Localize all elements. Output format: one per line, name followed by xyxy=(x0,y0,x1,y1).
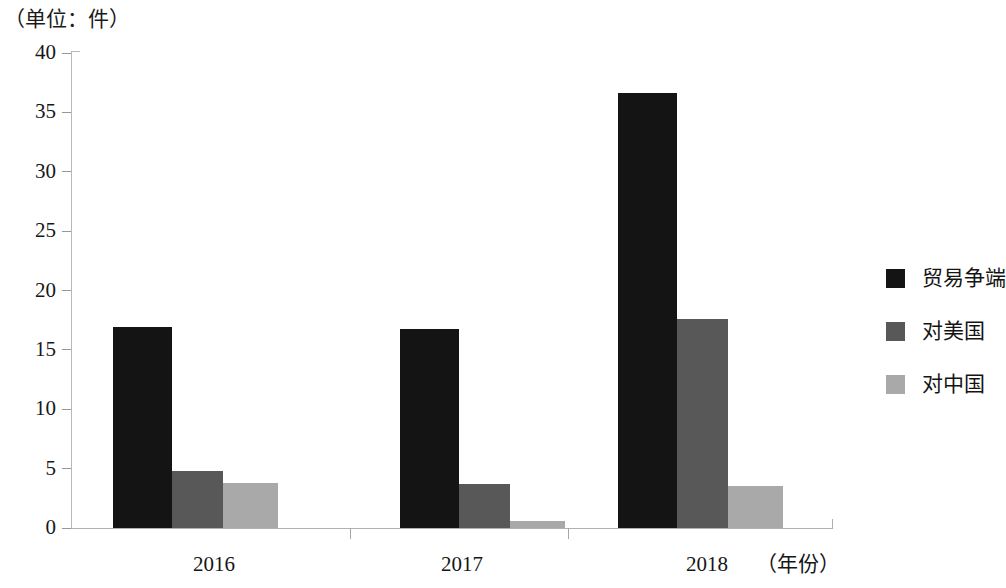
bar-2018-1 xyxy=(677,319,728,528)
legend-item-1: 对美国 xyxy=(886,321,985,342)
x-axis-title: （年份） xyxy=(756,552,840,576)
legend-swatch-icon xyxy=(886,322,905,341)
legend-swatch-icon xyxy=(886,269,905,288)
bar-2017-1 xyxy=(459,484,510,528)
x-axis-tick-label: 2017 xyxy=(422,552,502,576)
legend-label: 对美国 xyxy=(922,321,985,342)
bars-layer xyxy=(0,0,1004,528)
bar-2018-2 xyxy=(728,486,783,528)
bar-2018-0 xyxy=(618,93,677,528)
x-axis-line xyxy=(71,528,833,529)
legend-label: 贸易争端 xyxy=(922,268,1006,289)
x-axis-tick xyxy=(350,528,351,539)
bar-2016-1 xyxy=(172,471,223,528)
legend-item-0: 贸易争端 xyxy=(886,268,1006,289)
bar-2016-2 xyxy=(223,483,278,528)
legend-label: 对中国 xyxy=(922,374,985,395)
legend-swatch-icon xyxy=(886,375,905,394)
x-axis-tick xyxy=(568,528,569,539)
x-axis-tick-label: 2018 xyxy=(667,552,747,576)
bar-2017-0 xyxy=(400,329,459,529)
x-axis-tick-label: 2016 xyxy=(174,552,254,576)
bar-2016-0 xyxy=(113,327,172,528)
bar-2017-2 xyxy=(510,521,565,528)
legend-item-2: 对中国 xyxy=(886,374,985,395)
